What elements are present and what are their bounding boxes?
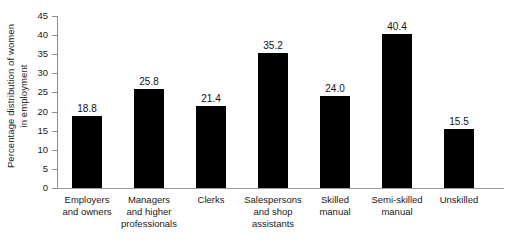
y-axis-tick-label: 0 [26,183,48,193]
y-axis-tick [52,16,57,17]
y-axis-tick-label: 15 [26,126,48,136]
bar [258,53,288,188]
y-axis-line [57,16,58,188]
bar-value-label: 35.2 [243,40,303,51]
x-axis-category-line: and owners [56,206,118,218]
y-axis-tick [52,54,57,55]
y-axis-tick-label: 30 [26,68,48,78]
y-axis-tick [52,131,57,132]
x-axis-category-label: Employersand owners [56,194,118,218]
y-axis-tick-label: 25 [26,87,48,97]
x-axis-category-label: Managersand higherprofessionals [118,194,180,230]
x-axis-line [57,188,504,189]
y-axis-tick-label: 20 [26,107,48,117]
x-axis-category-line: Managers [118,194,180,206]
x-axis-category-line: Employers [56,194,118,206]
x-axis-category-label: Skilledmanual [304,194,366,218]
x-axis-category-line: manual [304,206,366,218]
bar-value-label: 15.5 [429,116,489,127]
x-axis-category-line: manual [366,206,428,218]
y-axis-tick [52,73,57,74]
x-axis-category-line: Clerks [180,194,242,206]
y-axis-tick [52,92,57,93]
y-axis-tick-label: 45 [26,11,48,21]
bar-chart: Percentage distribution of women in empl… [0,0,509,245]
y-axis-tick-label: 10 [26,145,48,155]
x-axis-category-line: Unskilled [428,194,490,206]
y-axis-tick [52,150,57,151]
plot-area: 051015202530354045 18.825.821.435.224.04… [57,16,504,188]
y-axis-tick [52,169,57,170]
y-axis-tick-label: 40 [26,30,48,40]
x-axis-category-label: Unskilled [428,194,490,206]
y-axis-tick-label: 5 [26,164,48,174]
x-axis-category-line: Semi-skilled [366,194,428,206]
bar [444,129,474,188]
bar-value-label: 40.4 [367,21,427,32]
x-axis-category-label: Clerks [180,194,242,206]
bar [72,116,102,188]
x-axis-category-line: and higher [118,206,180,218]
bar [320,96,350,188]
x-axis-category-line: and shop [242,206,304,218]
y-axis-title-line-1: Percentage distribution of women [4,24,17,168]
bar [382,34,412,188]
bar-value-label: 18.8 [57,103,117,114]
bar [196,106,226,188]
y-axis-tick [52,188,57,189]
bar-value-label: 25.8 [119,76,179,87]
x-axis-category-line: assistants [242,218,304,230]
y-axis-tick [52,35,57,36]
y-axis-tick-label: 35 [26,49,48,59]
bar-value-label: 24.0 [305,83,365,94]
x-axis-category-label: Salespersonsand shopassistants [242,194,304,230]
x-axis-category-line: Skilled [304,194,366,206]
bar-value-label: 21.4 [181,93,241,104]
x-axis-category-line: Salespersons [242,194,304,206]
x-axis-category-line: professionals [118,218,180,230]
bar [134,89,164,188]
x-axis-category-label: Semi-skilledmanual [366,194,428,218]
